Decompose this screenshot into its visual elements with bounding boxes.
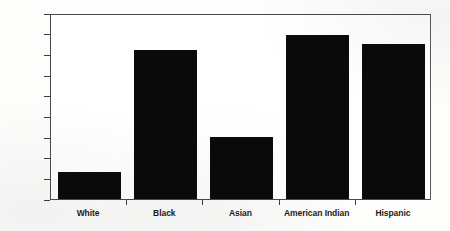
x-axis-tick-label: Hispanic [355, 208, 431, 218]
x-axis-tick-label: White [50, 208, 126, 218]
plot-frame [50, 14, 431, 200]
bar-chart-figure: Percentage 051015202530354045 WhiteBlack… [0, 0, 450, 231]
x-axis-tick-mark [279, 200, 280, 205]
bar-american-indian [286, 35, 349, 199]
x-axis-tick-mark [202, 200, 203, 205]
x-axis-tick-label: Asian [202, 208, 278, 218]
bar-black [134, 50, 197, 199]
plot-area [51, 15, 430, 199]
x-axis-tick-label: Black [126, 208, 202, 218]
bar-hispanic [362, 44, 425, 199]
bar-white [58, 172, 121, 199]
x-axis-tick-mark [355, 200, 356, 205]
bar-asian [210, 137, 273, 199]
x-axis-tick-label: American Indian [279, 208, 355, 218]
x-axis-tick-mark [126, 200, 127, 205]
